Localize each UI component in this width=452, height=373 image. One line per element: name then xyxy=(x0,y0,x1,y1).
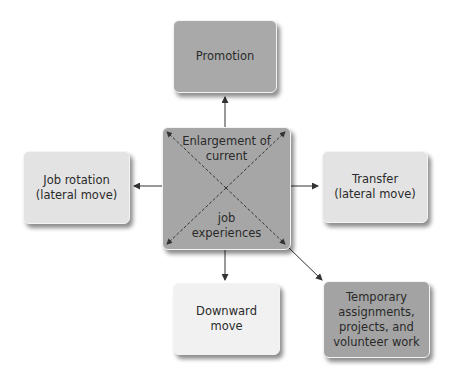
temporary-label-1: Temporary xyxy=(346,290,407,305)
temporary-label-4: volunteer work xyxy=(333,335,420,350)
downward-move-box: Downward move xyxy=(173,283,280,355)
job-rotation-label-2: (lateral move) xyxy=(36,188,118,203)
promotion-label: Promotion xyxy=(196,49,255,64)
downward-move-label-2: move xyxy=(210,319,242,334)
transfer-label-1: Transfer xyxy=(352,172,398,187)
temporary-assignments-box: Temporary assignments, projects, and vol… xyxy=(323,281,430,358)
downward-move-label-1: Downward xyxy=(196,304,257,319)
center-bottom-text: job experiences xyxy=(163,211,290,241)
promotion-box: Promotion xyxy=(173,20,277,93)
center-label-4: experiences xyxy=(163,226,290,241)
temporary-label-2: assignments, xyxy=(338,305,415,320)
center-label-1: Enlargement of xyxy=(163,134,290,149)
enlargement-center-box: Enlargement of current job experiences xyxy=(162,127,291,250)
job-rotation-label-1: Job rotation xyxy=(43,173,109,188)
transfer-label-2: (lateral move) xyxy=(334,187,416,202)
center-label-3: job xyxy=(163,211,290,226)
temporary-label-3: projects, and xyxy=(339,320,414,335)
center-top-text: Enlargement of current xyxy=(163,134,290,164)
transfer-box: Transfer (lateral move) xyxy=(322,151,428,223)
arrow-to-temporary xyxy=(289,248,322,280)
center-label-2: current xyxy=(163,149,290,164)
job-rotation-box: Job rotation (lateral move) xyxy=(23,151,130,224)
